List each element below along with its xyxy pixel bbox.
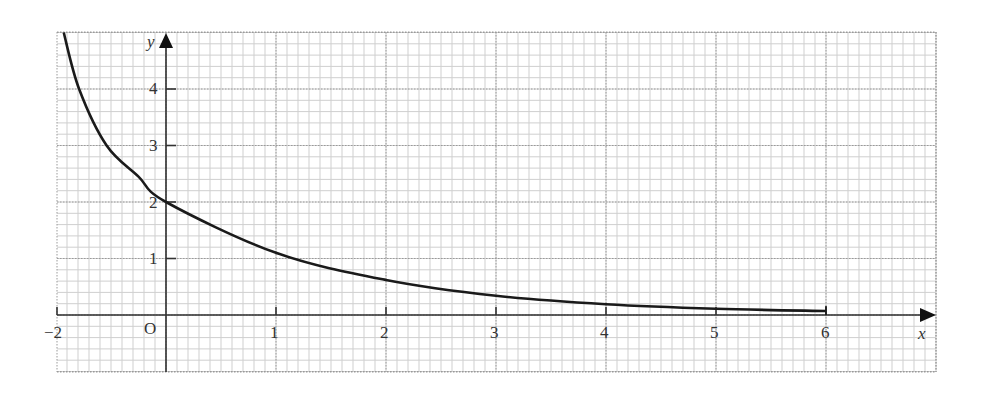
x-tick-label: −2 (44, 324, 62, 341)
origin-label: O (144, 320, 156, 337)
grid (57, 32, 936, 372)
y-tick-label: 4 (149, 80, 158, 97)
x-tick-label: 6 (821, 324, 830, 341)
x-tick-label: 4 (600, 324, 609, 341)
y-tick-label: 2 (149, 194, 158, 211)
x-tick-label: 5 (710, 324, 719, 341)
y-tick-label: 1 (149, 250, 158, 267)
x-tick-label: 3 (490, 324, 499, 341)
x-tick-label: 2 (380, 324, 389, 341)
y-tick-label: 3 (149, 137, 158, 154)
y-axis-label: y (147, 33, 155, 50)
data-curve (64, 33, 826, 312)
x-axis-label: x (918, 325, 926, 342)
x-tick-label: 1 (270, 324, 279, 341)
